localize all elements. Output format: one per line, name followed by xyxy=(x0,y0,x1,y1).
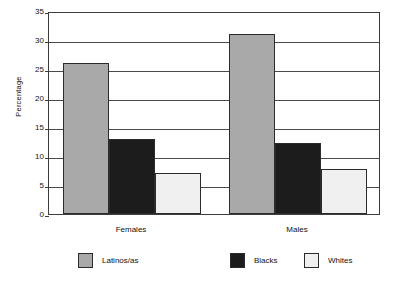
legend-label: Blacks xyxy=(254,256,278,265)
y-axis-tick-label: 15 xyxy=(26,124,44,132)
x-axis-label-females: Females xyxy=(81,225,181,234)
legend-item-blacks[interactable]: Blacks xyxy=(230,247,278,273)
y-axis-tick-label: 0 xyxy=(26,211,44,219)
legend-label: Latinos/as xyxy=(102,256,138,265)
y-axis-tick-labels: 05101520253035 xyxy=(24,0,44,282)
legend-item-whites[interactable]: Whites xyxy=(304,247,352,273)
bar-chart: Percentage 05101520253035 FemalesMales L… xyxy=(0,0,413,282)
y-axis-tick xyxy=(45,216,49,217)
chart-legend: Latinos/asBlacksWhites xyxy=(48,247,380,273)
y-axis-tick-label: 10 xyxy=(26,153,44,161)
y-axis-tick-label: 20 xyxy=(26,95,44,103)
y-axis-tick-label: 35 xyxy=(26,8,44,16)
bar-females-whites xyxy=(155,173,201,214)
y-axis-tick-label: 5 xyxy=(26,182,44,190)
bars-layer xyxy=(49,13,379,214)
bar-males-whites xyxy=(321,169,367,214)
y-axis-title: Percentage xyxy=(14,57,23,137)
legend-swatch-latinos-as xyxy=(78,253,93,268)
bar-males-blacks xyxy=(275,143,321,214)
legend-swatch-whites xyxy=(304,253,319,268)
legend-swatch-blacks xyxy=(230,253,245,268)
legend-item-latinos-as[interactable]: Latinos/as xyxy=(78,247,138,273)
x-axis-label-males: Males xyxy=(247,225,347,234)
plot-area xyxy=(48,12,380,215)
y-axis-tick-label: 25 xyxy=(26,66,44,74)
legend-label: Whites xyxy=(328,256,352,265)
bar-females-blacks xyxy=(109,139,155,214)
y-axis-tick-label: 30 xyxy=(26,37,44,45)
bar-females-latinos-as xyxy=(63,63,109,214)
bar-males-latinos-as xyxy=(229,34,275,214)
